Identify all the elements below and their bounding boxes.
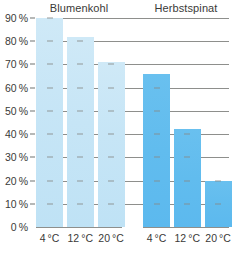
inner-tick-mark	[154, 134, 160, 135]
y-tick-label: 10 %	[0, 198, 28, 210]
y-tick-mark	[30, 64, 35, 65]
x-tick-label: 20 °C	[98, 232, 125, 244]
inner-tick-mark	[47, 134, 53, 135]
y-tick-mark	[30, 203, 35, 204]
gridline	[36, 88, 229, 89]
panel-title-herbstspinat: Herbstspinat	[143, 2, 229, 14]
inner-tick-mark	[108, 110, 114, 111]
gridline	[36, 41, 229, 42]
gridline	[36, 18, 229, 19]
bar	[36, 18, 63, 227]
bar-chart: Blumenkohl Herbstspinat 0 %10 %20 %30 %4…	[0, 0, 239, 262]
inner-tick-mark	[77, 180, 83, 181]
inner-tick-mark	[77, 134, 83, 135]
inner-tick-mark	[47, 64, 53, 65]
y-tick-label: 20 %	[0, 175, 28, 187]
y-tick-label: 60 %	[0, 82, 28, 94]
x-tick-label: 12 °C	[174, 232, 201, 244]
plot-area	[36, 18, 229, 227]
y-tick-mark	[30, 180, 35, 181]
gridline	[36, 111, 229, 112]
inner-tick-mark	[154, 87, 160, 88]
x-tick-label: 4 °C	[36, 232, 63, 244]
inner-tick-mark	[77, 87, 83, 88]
y-tick-label: 0 %	[0, 221, 28, 233]
inner-tick-mark	[47, 18, 53, 19]
inner-tick-mark	[108, 180, 114, 181]
y-tick-mark	[30, 110, 35, 111]
y-tick-label: 50 %	[0, 105, 28, 117]
y-tick-label: 80 %	[0, 35, 28, 47]
y-tick-label: 40 %	[0, 128, 28, 140]
inner-tick-mark	[77, 203, 83, 204]
inner-tick-mark	[108, 203, 114, 204]
inner-tick-mark	[108, 157, 114, 158]
inner-tick-mark	[47, 87, 53, 88]
panel-title-blumenkohl: Blumenkohl	[36, 2, 122, 14]
baseline-right	[143, 227, 229, 228]
inner-tick-mark	[77, 41, 83, 42]
inner-tick-mark	[215, 203, 221, 204]
y-tick-mark	[30, 157, 35, 158]
inner-tick-mark	[47, 41, 53, 42]
inner-tick-mark	[154, 110, 160, 111]
y-tick-mark	[30, 87, 35, 88]
x-tick-label: 20 °C	[205, 232, 232, 244]
inner-tick-mark	[47, 180, 53, 181]
y-tick-mark	[30, 134, 35, 135]
inner-tick-mark	[108, 87, 114, 88]
baseline-left	[36, 227, 122, 228]
inner-tick-mark	[47, 203, 53, 204]
inner-tick-mark	[47, 110, 53, 111]
x-tick-label: 12 °C	[67, 232, 94, 244]
bar	[174, 129, 201, 227]
inner-tick-mark	[154, 157, 160, 158]
inner-tick-mark	[108, 134, 114, 135]
y-tick-label: 30 %	[0, 151, 28, 163]
bar	[67, 37, 94, 227]
y-tick-mark	[30, 41, 35, 42]
inner-tick-mark	[47, 157, 53, 158]
x-tick-label: 4 °C	[143, 232, 170, 244]
inner-tick-mark	[108, 64, 114, 65]
y-tick-label: 90 %	[0, 12, 28, 24]
inner-tick-mark	[184, 134, 190, 135]
inner-tick-mark	[77, 64, 83, 65]
gridline	[36, 64, 229, 65]
y-tick-label: 70 %	[0, 58, 28, 70]
inner-tick-mark	[184, 180, 190, 181]
inner-tick-mark	[184, 157, 190, 158]
inner-tick-mark	[154, 180, 160, 181]
inner-tick-mark	[154, 203, 160, 204]
inner-tick-mark	[77, 110, 83, 111]
y-tick-mark	[30, 18, 35, 19]
inner-tick-mark	[77, 157, 83, 158]
inner-tick-mark	[215, 180, 221, 181]
inner-tick-mark	[184, 203, 190, 204]
